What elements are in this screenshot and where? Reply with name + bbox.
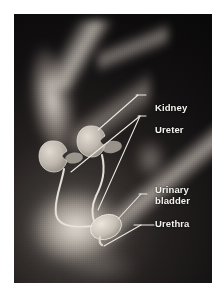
anatomy-photograph: Kidney Ureter Urinary bladder Urethra: [14, 14, 212, 283]
right-kidney: [77, 126, 105, 157]
label-urethra: Urethra: [155, 218, 190, 229]
label-ureter: Ureter: [155, 124, 184, 135]
leader-line-kidney: [98, 95, 138, 130]
urinary-system-overlay: [14, 14, 212, 283]
label-urinary-bladder: Urinary bladder: [155, 184, 190, 206]
leader-dashes: [136, 95, 147, 194]
left-kidney: [39, 141, 67, 172]
figure-page: Kidney Ureter Urinary bladder Urethra: [0, 0, 224, 295]
label-kidney: Kidney: [155, 102, 187, 113]
leader-line-bladder: [118, 194, 141, 219]
